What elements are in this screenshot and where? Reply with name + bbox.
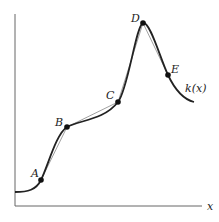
graph-figure: A B C D E k(x) x	[0, 0, 219, 222]
point-markers	[38, 20, 171, 183]
x-axis-label: x	[207, 200, 214, 213]
curve-k	[15, 23, 194, 192]
point-label-d: D	[130, 12, 140, 25]
point-label-a: A	[30, 167, 39, 180]
point-label-e: E	[170, 63, 179, 76]
secant-lines	[41, 23, 168, 180]
point-label-b: B	[54, 116, 63, 129]
function-label: k(x)	[185, 82, 206, 95]
point-label-c: C	[106, 89, 115, 102]
